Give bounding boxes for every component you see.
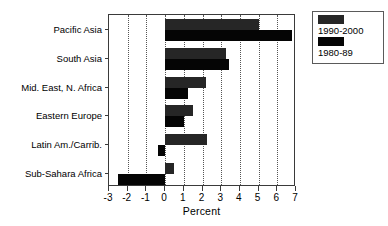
legend-label: 1980-89 (318, 47, 379, 58)
bar (165, 116, 184, 127)
legend-entry: 1990-2000 (318, 15, 379, 36)
bar (118, 174, 165, 185)
x-tick (183, 186, 184, 191)
plot-area (108, 14, 295, 186)
category-axis: Pacific Asia South Asia Mid. East, N. Af… (0, 14, 106, 186)
bar (165, 105, 193, 116)
x-tick-label: 3 (217, 192, 223, 203)
x-tick (220, 186, 221, 191)
y-tick (105, 29, 109, 30)
x-tick (164, 186, 165, 191)
category-label: Eastern Europe (36, 111, 102, 121)
category-label: Mid. East, N. Africa (21, 83, 102, 93)
x-tick-label: 5 (255, 192, 261, 203)
category-label: Latin Am./Carrib. (31, 140, 102, 150)
legend-entry: 1980-89 (318, 37, 379, 58)
category-label: Sub-Sahara Africa (25, 169, 102, 179)
legend-label: 1990-2000 (318, 25, 379, 36)
x-tick (258, 186, 259, 191)
x-tick-label: -1 (141, 192, 150, 203)
x-tick (127, 186, 128, 191)
x-tick-label: 2 (199, 192, 205, 203)
bar (165, 59, 229, 70)
bar (165, 88, 187, 99)
y-tick (105, 173, 109, 174)
bars-layer (109, 15, 294, 185)
bar (165, 30, 292, 41)
x-tick (239, 186, 240, 191)
bar (165, 19, 259, 30)
x-tick-label: 1 (180, 192, 186, 203)
x-tick-label: 6 (274, 192, 280, 203)
x-tick (276, 186, 277, 191)
x-tick (145, 186, 146, 191)
legend-swatch-older (318, 37, 344, 46)
x-tick (108, 186, 109, 191)
bar (165, 77, 206, 88)
x-axis-title: Percent (108, 205, 295, 217)
bar-chart: Pacific Asia South Asia Mid. East, N. Af… (0, 0, 388, 226)
x-tick (295, 186, 296, 191)
bar (165, 134, 207, 145)
category-label: South Asia (57, 54, 102, 64)
y-tick (105, 58, 109, 59)
x-axis: -3-2-101234567 Percent (108, 186, 295, 226)
y-tick (105, 115, 109, 116)
bar (165, 163, 174, 174)
legend-swatch-recent (318, 15, 344, 24)
x-tick-label: -3 (104, 192, 113, 203)
y-tick (105, 144, 109, 145)
x-tick-label: 0 (161, 192, 167, 203)
x-tick (202, 186, 203, 191)
x-tick-label: 7 (292, 192, 298, 203)
legend: 1990-2000 1980-89 (312, 11, 384, 64)
category-label: Pacific Asia (53, 25, 102, 35)
y-tick (105, 87, 109, 88)
bar (165, 48, 226, 59)
bar (158, 145, 165, 156)
x-tick-label: -2 (122, 192, 131, 203)
x-tick-label: 4 (236, 192, 242, 203)
